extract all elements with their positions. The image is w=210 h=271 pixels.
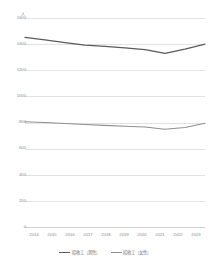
line-chart: 人 02004006008001000120014001600 20142015… <box>0 0 210 271</box>
legend-swatch-female <box>111 252 122 253</box>
x-axis-tick-label: 2017 <box>79 232 97 241</box>
gridline <box>25 227 205 228</box>
x-axis-tick-label: 2015 <box>43 232 61 241</box>
x-axis-tick-label: 2022 <box>169 232 187 241</box>
chart-legend: 招收工（男性） 招收工（女性） <box>0 250 210 255</box>
plot-area: 02004006008001000120014001600 <box>25 18 205 227</box>
legend-swatch-male <box>59 252 70 253</box>
x-axis-tick-label: 2023 <box>187 232 205 241</box>
x-axis-tick-label: 2016 <box>61 232 79 241</box>
legend-item-male[interactable]: 招收工（男性） <box>59 250 99 255</box>
x-axis-tick-label: 2021 <box>151 232 169 241</box>
x-axis-tick-labels: 2014201520162017201820192020202120222023 <box>25 232 205 241</box>
legend-label-female: 招收工（女性） <box>123 250 151 255</box>
x-axis-tick-label: 2018 <box>97 232 115 241</box>
x-axis-tick-label: 2014 <box>25 232 43 241</box>
series-line <box>25 37 205 53</box>
x-axis-tick-label: 2020 <box>133 232 151 241</box>
legend-label-male: 招收工（男性） <box>72 250 100 255</box>
series-line <box>25 122 205 130</box>
series-lines <box>25 18 205 227</box>
legend-item-female[interactable]: 招收工（女性） <box>111 250 151 255</box>
x-axis-tick-label: 2019 <box>115 232 133 241</box>
